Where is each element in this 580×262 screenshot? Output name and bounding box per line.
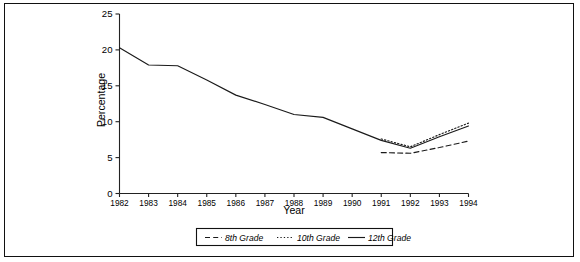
y-axis-title: Percentage	[95, 73, 107, 127]
x-tick-label: 1987	[256, 198, 275, 208]
y-tick-label: 5	[107, 152, 112, 163]
x-tick-label: 1994	[459, 198, 478, 208]
x-tick-label: 1993	[430, 198, 449, 208]
x-tick-label: 1983	[139, 198, 158, 208]
x-tick-label: 1992	[401, 198, 420, 208]
legend-label: 8th Grade	[225, 233, 263, 243]
x-tick-label: 1985	[198, 198, 217, 208]
x-tick-label: 1991	[372, 198, 391, 208]
series-line-12th-grade	[120, 48, 469, 149]
x-tick-label: 1982	[110, 198, 129, 208]
x-tick-label: 1989	[314, 198, 333, 208]
x-tick-label: 1984	[168, 198, 187, 208]
legend-label: 12th Grade	[368, 233, 411, 243]
y-tick-label: 20	[102, 44, 113, 55]
y-tick-marks	[116, 14, 120, 194]
line-chart: 0510152025 19821983198419851986198719881…	[0, 0, 580, 262]
x-tick-label: 1986	[227, 198, 246, 208]
legend-items: 8th Grade10th Grade12th Grade	[205, 233, 411, 243]
chart-legend: 8th Grade10th Grade12th Grade	[197, 229, 412, 246]
y-tick-label: 25	[102, 8, 113, 19]
x-tick-label: 1990	[343, 198, 362, 208]
x-axis-title: Year	[283, 204, 305, 216]
data-series-group	[120, 48, 469, 154]
legend-label: 10th Grade	[297, 233, 340, 243]
series-line-10th-grade	[381, 123, 468, 147]
